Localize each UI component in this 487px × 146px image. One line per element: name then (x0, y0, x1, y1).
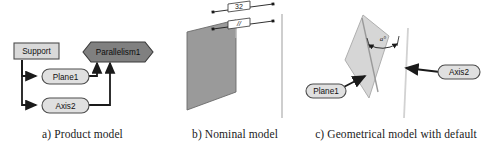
node-plane1[interactable]: Plane1 (306, 84, 346, 98)
callout-axis2 (406, 68, 440, 72)
panel-nominal-model: 32 // b) Nominal model (165, 0, 305, 146)
product-model-diagram: Support Plane1 Axis2 Parallelism1 (0, 0, 165, 122)
node-plane1-label: Plane1 (53, 73, 79, 82)
node-axis2[interactable]: Axis2 (438, 65, 480, 79)
node-axis2-label: Axis2 (449, 68, 469, 77)
dimension-distance-box: 32 (228, 1, 250, 12)
figure-container: Support Plane1 Axis2 Parallelism1 a) Pro… (0, 0, 487, 146)
node-support[interactable]: Support (14, 43, 59, 59)
panel-geometrical-model: a° Plane1 Axis2 c) Geometrical model wit… (305, 0, 487, 146)
edge-support-to-axis2 (22, 60, 36, 105)
nominal-model-diagram: 32 // (165, 0, 305, 122)
node-parallelism1[interactable]: Parallelism1 (83, 42, 153, 62)
caption-product-model: a) Product model (0, 128, 165, 140)
node-plane1[interactable]: Plane1 (42, 69, 89, 84)
edge-support-to-plane1 (22, 60, 36, 76)
nominal-plane-surface (187, 20, 236, 110)
node-axis2-label: Axis2 (55, 102, 75, 111)
angle-label: a° (380, 35, 387, 43)
node-parallelism1-label: Parallelism1 (96, 48, 141, 57)
parallelism-symbol-box: // (228, 18, 250, 29)
dimension-distance-label: 32 (235, 3, 243, 10)
caption-geometrical-model: c) Geometrical model with default (305, 128, 487, 140)
geometrical-plane-surface (345, 15, 389, 98)
dimension-distance: 32 (213, 1, 273, 12)
edge-plane1-to-parallelism1 (88, 63, 97, 76)
panel-product-model: Support Plane1 Axis2 Parallelism1 a) Pro… (0, 0, 165, 146)
node-support-label: Support (22, 47, 51, 56)
caption-nominal-model: b) Nominal model (165, 128, 305, 140)
node-plane1-label: Plane1 (313, 87, 339, 96)
edge-axis2-to-parallelism1 (88, 63, 110, 105)
reference-axis-line (404, 28, 408, 118)
geometrical-model-diagram: a° Plane1 Axis2 (305, 0, 487, 122)
node-axis2[interactable]: Axis2 (42, 98, 89, 113)
